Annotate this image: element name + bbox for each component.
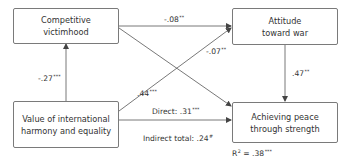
coef-value-to-attitude: .44*** [137, 89, 157, 98]
node-label-line2: harmony and equality [21, 125, 111, 137]
r-squared: R2 = .38*** [232, 149, 272, 158]
coef-attitude-to-achieving: .47** [292, 69, 309, 78]
node-competitive-victimhood: Competitive victimhood [13, 8, 119, 44]
node-label-line1: Competitive [41, 14, 91, 26]
coef-cv-to-attitude: -.08** [164, 15, 184, 24]
node-attitude-toward-war: Attitude toward war [232, 8, 338, 45]
node-label-line1: Attitude [262, 15, 308, 27]
coef-value-to-cv: -.27*** [38, 74, 61, 83]
node-label-line1: Value of international [21, 113, 111, 125]
arrow-value-to-attitude [119, 28, 231, 111]
coef-cv-to-achieving: -.07** [206, 47, 226, 56]
node-label-line2: victimhood [41, 26, 91, 38]
node-label-line1: Achieving peace [250, 111, 319, 123]
coef-direct-value-to-achieving: Direct: .31*** [152, 107, 200, 116]
arrow-cv-to-achieving [119, 28, 231, 106]
node-value-international-harmony: Value of international harmony and equal… [13, 101, 119, 148]
indirect-total: Indirect total: .24# [143, 134, 213, 143]
node-achieving-peace: Achieving peace through strength [232, 102, 338, 143]
node-label-line2: toward war [262, 27, 308, 39]
node-label-line2: through strength [250, 123, 319, 135]
